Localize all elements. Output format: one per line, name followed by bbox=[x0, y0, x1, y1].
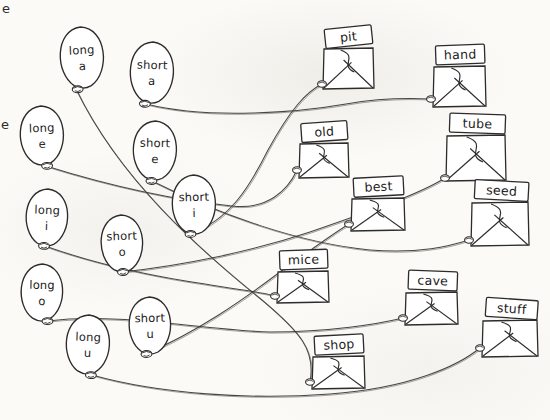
worksheet-canvas: ee longashortalongeshorteshortilongishor… bbox=[0, 0, 550, 420]
edge-fragment-layer: ee bbox=[0, 0, 550, 420]
edge-fragment-top: e bbox=[2, 2, 10, 15]
edge-fragment-middle: e bbox=[1, 118, 9, 131]
